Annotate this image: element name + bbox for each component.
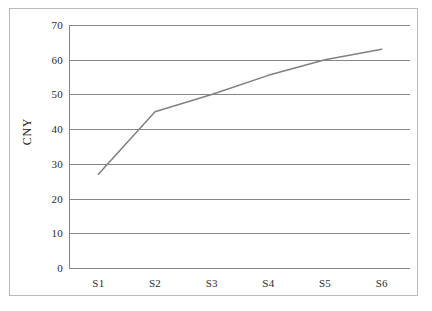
x-axis-tick-label: S4 [262, 277, 274, 289]
x-axis-tick-label: S2 [149, 277, 161, 289]
y-axis-tick-label: 10 [52, 227, 63, 239]
x-axis-line [69, 268, 410, 269]
x-axis-tick-label: S1 [92, 277, 104, 289]
y-axis-tick-label: 70 [52, 19, 63, 31]
y-axis-title: CNY [20, 118, 35, 145]
x-axis-tick-label: S5 [319, 277, 331, 289]
y-axis-tick-label: 20 [52, 193, 63, 205]
y-axis-tick-label: 0 [57, 262, 63, 274]
y-axis-tick-label: 30 [52, 158, 63, 170]
y-axis-tick-label: 50 [52, 88, 63, 100]
y-axis-tick-label: 40 [52, 123, 63, 135]
y-axis-tick-labels: 010203040506070 [34, 25, 63, 268]
series-polyline [98, 49, 381, 174]
x-axis-tick-labels: S1S2S3S4S5S6 [70, 277, 410, 293]
x-axis-tick-label: S3 [206, 277, 218, 289]
plot-area [70, 25, 410, 268]
chart-figure: CNY 010203040506070 S1S2S3S4S5S6 [0, 0, 432, 311]
x-axis-tick-label: S6 [376, 277, 388, 289]
line-series [70, 25, 410, 268]
y-axis-tick-label: 60 [52, 54, 63, 66]
